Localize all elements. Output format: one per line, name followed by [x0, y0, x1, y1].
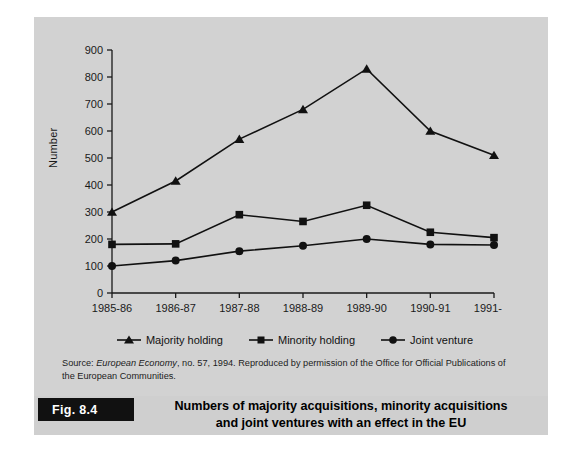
source-prefix: Source:: [62, 358, 96, 368]
caption-line-2: and joint ventures with an effect in the…: [146, 415, 536, 432]
y-tick-label: 200: [85, 233, 103, 245]
data-point-marker: [235, 247, 243, 255]
chart-plot-area: 01002003004005006007008009001985-861986-…: [82, 33, 502, 325]
y-tick-label: 700: [85, 98, 103, 110]
data-point-marker: [108, 262, 116, 270]
x-tick-label: 1985-86: [92, 302, 132, 314]
x-tick-label: 1989-90: [346, 302, 386, 314]
x-tick-label: 1987-88: [219, 302, 259, 314]
x-tick-label: 1991-92: [474, 302, 502, 314]
circle-marker-icon: [381, 334, 405, 346]
data-point-marker: [490, 241, 498, 249]
data-point-marker: [172, 257, 180, 265]
legend-label-majority: Majority holding: [146, 334, 223, 346]
line-chart: 01002003004005006007008009001985-861986-…: [82, 33, 502, 325]
y-tick-label: 500: [85, 152, 103, 164]
caption-line-1: Numbers of majority acquisitions, minori…: [146, 398, 536, 415]
data-point-marker: [489, 151, 499, 159]
data-point-marker: [108, 241, 116, 249]
data-point-marker: [362, 64, 372, 72]
data-point-marker: [299, 218, 307, 226]
source-note: Source: European Economy, no. 57, 1994. …: [62, 357, 517, 382]
figure-root: Number 01002003004005006007008009001985-…: [0, 0, 574, 457]
legend-label-joint-venture: Joint venture: [410, 334, 473, 346]
data-point-marker: [171, 176, 181, 184]
series-line-triangle: [112, 69, 494, 212]
y-tick-label: 0: [97, 287, 103, 299]
triangle-marker-icon: [117, 334, 141, 346]
data-point-marker: [363, 235, 371, 243]
x-tick-label: 1988-89: [283, 302, 323, 314]
y-tick-label: 400: [85, 179, 103, 191]
x-tick-label: 1986-87: [155, 302, 195, 314]
legend-item-joint-venture: Joint venture: [381, 334, 473, 346]
y-tick-label: 100: [85, 260, 103, 272]
y-tick-label: 600: [85, 125, 103, 137]
data-point-marker: [172, 240, 180, 248]
legend-item-majority: Majority holding: [117, 334, 223, 346]
data-point-marker: [363, 201, 371, 209]
legend-item-minority: Minority holding: [249, 334, 355, 346]
data-point-marker: [234, 135, 244, 143]
y-tick-label: 800: [85, 71, 103, 83]
data-point-marker: [490, 234, 498, 242]
data-point-marker: [298, 105, 308, 113]
y-tick-label: 900: [85, 44, 103, 56]
chart-legend: Majority holding Minority holding Joint …: [110, 331, 480, 349]
figure-tag: Fig. 8.4: [38, 398, 134, 421]
legend-label-minority: Minority holding: [278, 334, 355, 346]
x-tick-label: 1990-91: [410, 302, 450, 314]
data-point-marker: [299, 242, 307, 250]
data-point-marker: [236, 211, 244, 219]
y-tick-label: 300: [85, 206, 103, 218]
data-point-marker: [427, 228, 435, 236]
data-point-marker: [426, 240, 434, 248]
square-marker-icon: [249, 334, 273, 346]
figure-caption: Numbers of majority acquisitions, minori…: [146, 396, 536, 432]
source-italic-title: European Economy: [96, 358, 177, 368]
y-axis-label: Number: [47, 128, 59, 168]
